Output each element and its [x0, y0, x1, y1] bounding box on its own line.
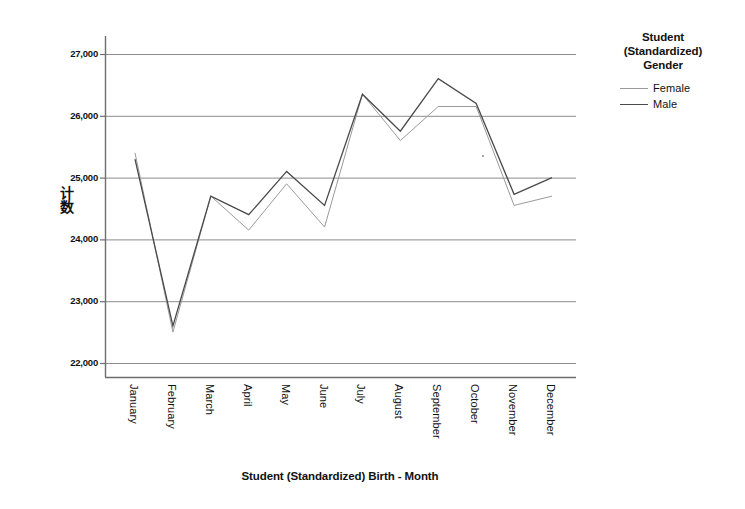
x-tick-label: April [242, 384, 254, 407]
legend-item-female[interactable]: Female [620, 80, 740, 95]
legend: Student(Standardized)Gender FemaleMale [600, 30, 740, 112]
legend-title-line: Student [600, 30, 726, 44]
x-tick-label: June [318, 384, 330, 408]
x-tick-label: January [128, 384, 140, 424]
x-tick-label: May [280, 384, 292, 405]
legend-swatch-female-icon [620, 83, 648, 93]
line-chart: 计数 27,00026,00025,00024,00023,00022,000 … [0, 0, 745, 509]
x-axis-title: Student (Standardized) Birth - Month [105, 470, 575, 482]
legend-label: Female [653, 82, 690, 94]
legend-title-line: Gender [600, 58, 726, 72]
legend-title-line: (Standardized) [600, 44, 726, 58]
legend-label: Male [653, 98, 677, 110]
legend-title: Student(Standardized)Gender [600, 30, 726, 72]
x-tick-label: February [166, 384, 178, 429]
x-tick-label: July [355, 384, 367, 404]
x-tick-label: October [469, 384, 481, 424]
x-tick-label: August [393, 384, 405, 419]
x-tick-label: November [507, 384, 519, 436]
x-tick-label: December [545, 384, 557, 436]
legend-item-male[interactable]: Male [620, 96, 740, 111]
legend-swatch-male-icon [620, 99, 648, 109]
legend-items: FemaleMale [600, 80, 740, 111]
x-tick-label: September [431, 384, 443, 439]
x-tick-label: March [204, 384, 216, 415]
